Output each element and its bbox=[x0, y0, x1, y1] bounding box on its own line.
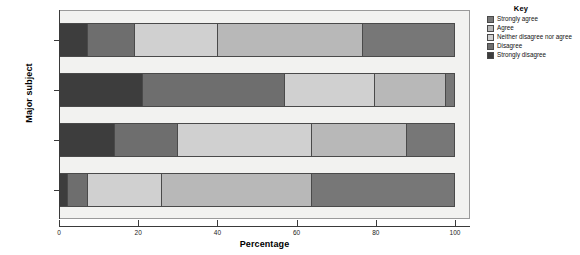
y-tick-mark bbox=[54, 90, 60, 91]
y-axis-title: Major subject bbox=[24, 38, 34, 148]
legend-item[interactable]: Strongly disagree bbox=[487, 51, 579, 60]
x-tick-mark bbox=[59, 220, 60, 226]
y-axis-line bbox=[59, 10, 60, 219]
legend-swatch-icon bbox=[487, 16, 494, 23]
bar-segment[interactable] bbox=[312, 174, 454, 206]
legend-item-label: Disagree bbox=[497, 42, 522, 50]
legend: Key Strongly agreeAgreeNeither disagree … bbox=[487, 4, 579, 60]
bar-segment[interactable] bbox=[143, 74, 285, 106]
bar-segment[interactable] bbox=[68, 174, 88, 206]
y-tick-mark bbox=[54, 40, 60, 41]
bar-segment[interactable] bbox=[88, 24, 135, 56]
legend-item-label: Neither disagree nor agree bbox=[497, 33, 572, 41]
bar-segment[interactable] bbox=[285, 74, 376, 106]
legend-item-label: Agree bbox=[497, 24, 514, 32]
bar-segment[interactable] bbox=[60, 124, 115, 156]
legend-swatch-icon bbox=[487, 43, 494, 50]
x-tick-mark bbox=[455, 220, 456, 226]
stacked-bar[interactable] bbox=[59, 123, 455, 157]
stacked-bar[interactable] bbox=[59, 23, 455, 57]
x-axis-line bbox=[59, 226, 470, 227]
legend-item[interactable]: Disagree bbox=[487, 42, 579, 51]
bar-segment[interactable] bbox=[115, 124, 178, 156]
stacked-bar[interactable] bbox=[59, 73, 455, 107]
x-tick-mark bbox=[138, 220, 139, 226]
bar-segment[interactable] bbox=[178, 124, 312, 156]
x-tick-label: 80 bbox=[361, 229, 391, 237]
x-axis-title: Percentage bbox=[59, 239, 470, 249]
x-tick-label: 0 bbox=[44, 229, 74, 237]
y-tick-mark bbox=[54, 140, 60, 141]
legend-swatch-icon bbox=[487, 52, 494, 59]
legend-item-label: Strongly disagree bbox=[497, 51, 546, 59]
bar-segment[interactable] bbox=[60, 174, 68, 206]
legend-item[interactable]: Strongly agree bbox=[487, 15, 579, 24]
bar-segment[interactable] bbox=[363, 24, 454, 56]
bar-segment[interactable] bbox=[60, 74, 143, 106]
bar-segment[interactable] bbox=[407, 124, 454, 156]
legend-swatch-icon bbox=[487, 25, 494, 32]
x-tick-mark bbox=[376, 220, 377, 226]
bar-segment[interactable] bbox=[375, 74, 446, 106]
x-tick-label: 60 bbox=[282, 229, 312, 237]
bar-segment[interactable] bbox=[135, 24, 218, 56]
legend-title: Key bbox=[487, 4, 555, 13]
legend-item[interactable]: Agree bbox=[487, 24, 579, 33]
legend-items: Strongly agreeAgreeNeither disagree nor … bbox=[487, 15, 579, 60]
bar-segment[interactable] bbox=[312, 124, 407, 156]
legend-item-label: Strongly agree bbox=[497, 15, 538, 23]
x-tick-label: 40 bbox=[202, 229, 232, 237]
bar-segment[interactable] bbox=[446, 74, 454, 106]
bar-segment[interactable] bbox=[162, 174, 312, 206]
bar-segment[interactable] bbox=[60, 24, 88, 56]
x-tick-mark bbox=[217, 220, 218, 226]
x-tick-label: 100 bbox=[440, 229, 470, 237]
stacked-bar[interactable] bbox=[59, 173, 455, 207]
legend-swatch-icon bbox=[487, 34, 494, 41]
x-tick-mark bbox=[297, 220, 298, 226]
y-tick-mark bbox=[54, 190, 60, 191]
legend-item[interactable]: Neither disagree nor agree bbox=[487, 33, 579, 42]
bar-segment[interactable] bbox=[88, 174, 163, 206]
bar-segment[interactable] bbox=[218, 24, 364, 56]
stacked-bar-chart: BusinessCommunity HealthEducationMedia M… bbox=[0, 0, 580, 255]
x-tick-label: 20 bbox=[123, 229, 153, 237]
